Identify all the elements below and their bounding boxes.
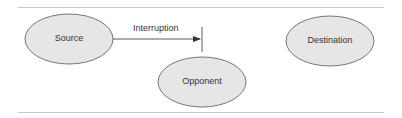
opponent-node-label: Opponent bbox=[158, 76, 246, 87]
diagram-canvas bbox=[0, 0, 402, 118]
interruption-label: Interruption bbox=[133, 23, 179, 34]
source-node-label: Source bbox=[25, 33, 113, 44]
destination-node-label: Destination bbox=[286, 35, 374, 46]
